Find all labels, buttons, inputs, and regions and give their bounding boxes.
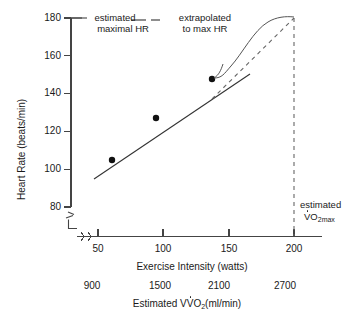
y-tick-label-100: 100 bbox=[28, 163, 61, 174]
y-tick-label-180: 180 bbox=[28, 12, 61, 23]
regression-line bbox=[94, 74, 250, 179]
vo2max-o: O bbox=[310, 211, 317, 222]
x-tick-label-150: 150 bbox=[214, 243, 244, 254]
annotation-vo2max-line1: estimated bbox=[300, 200, 341, 211]
x2-tick-label-2700: 2700 bbox=[269, 280, 301, 291]
y-axis-group bbox=[64, 18, 71, 207]
data-points-group bbox=[109, 76, 215, 163]
x-axis-group bbox=[77, 229, 322, 241]
vo2-dot-v: V bbox=[187, 298, 194, 309]
x2-title-sub: 2 bbox=[201, 303, 205, 310]
x-axis-title: Exercise Intensity (watts) bbox=[72, 261, 312, 272]
x-tick-label-100: 100 bbox=[148, 243, 178, 254]
y-tick-label-120: 120 bbox=[28, 125, 61, 136]
y-tick-label-140: 140 bbox=[28, 87, 61, 98]
vo2max-sub: 2max bbox=[318, 216, 335, 223]
annotation-extrapolated-line2: to max HR bbox=[166, 24, 244, 35]
y-axis-break-icon bbox=[66, 212, 77, 229]
annotation-vo2max-line2: VO2max bbox=[304, 212, 335, 223]
y-tick-label-80: 80 bbox=[28, 201, 61, 212]
data-point bbox=[153, 115, 159, 121]
y-tick-label-160: 160 bbox=[28, 50, 61, 61]
x-tick-label-50: 50 bbox=[83, 243, 113, 254]
x2-tick-label-1500: 1500 bbox=[144, 280, 176, 291]
vo2max-dot-v: V bbox=[304, 212, 310, 223]
x2-title-suffix: (ml/min) bbox=[205, 298, 241, 309]
x-axis-secondary-title: Estimated VVO2(ml/min) bbox=[62, 298, 312, 309]
x-tick-label-200: 200 bbox=[279, 243, 309, 254]
x2-title-o: O bbox=[193, 298, 201, 309]
data-point bbox=[209, 76, 215, 82]
x2-tick-label-900: 900 bbox=[76, 280, 108, 291]
x2-tick-label-2100: 2100 bbox=[203, 280, 235, 291]
x2-title-prefix: Estimated V bbox=[133, 298, 187, 309]
data-point bbox=[109, 157, 115, 163]
annotation-max-hr-line2: maximal HR bbox=[84, 24, 162, 35]
y-axis-title: Heart Rate (beats/min) bbox=[16, 99, 27, 200]
figure-root: 180 160 140 120 100 80 Heart Rate (beats… bbox=[0, 0, 344, 318]
